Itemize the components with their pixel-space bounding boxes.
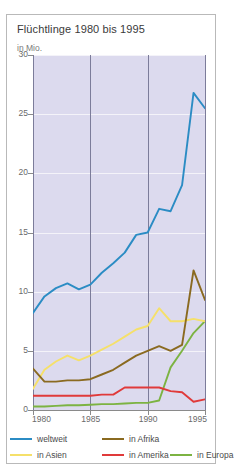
y-tick-label: 25 xyxy=(19,108,28,118)
series-line-in-amerika xyxy=(33,388,205,402)
legend-label: in Amerika xyxy=(129,450,169,460)
legend-label: in Asien xyxy=(37,450,67,460)
legend-swatch xyxy=(10,438,32,440)
legend-item-in-amerika[interactable]: in Amerika xyxy=(102,450,169,460)
legend-swatch xyxy=(10,454,32,456)
x-tick-label: 1980 xyxy=(32,414,51,424)
legend-item-in-asien[interactable]: in Asien xyxy=(10,450,67,460)
x-tick-label: 1990 xyxy=(139,414,158,424)
series-line-in-asien xyxy=(33,308,205,388)
y-tick-label: 0 xyxy=(23,404,28,414)
series-line-in-europa xyxy=(33,321,205,406)
legend-label: in Europa xyxy=(197,450,224,460)
series-lines xyxy=(33,55,205,410)
legend-item-in-europa[interactable]: in Europa xyxy=(170,450,224,460)
x-tick-label: 1985 xyxy=(81,414,100,424)
legend-item-in-afrika[interactable]: in Afrika xyxy=(102,434,159,444)
series-line-weltweit xyxy=(33,93,205,313)
legend-swatch xyxy=(102,454,124,456)
legend-swatch xyxy=(102,438,124,440)
x-tick-label: 1995 xyxy=(188,414,207,424)
y-tick-label: 15 xyxy=(19,227,28,237)
y-tick-label: 5 xyxy=(23,345,28,355)
legend-swatch xyxy=(170,454,192,456)
y-tick-label: 10 xyxy=(19,286,28,296)
y-tick-label: 20 xyxy=(19,167,28,177)
plot-area: 0510152025301980198519901995 xyxy=(0,0,224,476)
axis-baseline xyxy=(28,410,206,411)
x-gridline xyxy=(205,55,206,410)
legend-label: weltweit xyxy=(37,434,67,444)
legend-item-weltweit[interactable]: weltweit xyxy=(10,434,67,444)
legend-label: in Afrika xyxy=(129,434,159,444)
y-tick-label: 30 xyxy=(19,49,28,59)
